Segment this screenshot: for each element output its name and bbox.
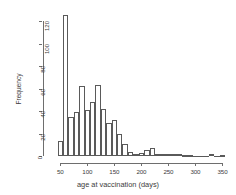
y-axis-tick-label: 80: [39, 66, 46, 73]
histogram-figure: 020406080100120 50100150200250300350 Fre…: [0, 0, 236, 195]
x-axis-tick-label: 300: [190, 168, 200, 175]
x-axis-tick-label: 350: [217, 168, 227, 175]
x-axis-tick: [195, 163, 196, 166]
x-axis-title: age at vaccination (days): [0, 180, 236, 189]
y-axis-tick-label: 100: [43, 44, 50, 54]
x-axis-tick: [114, 163, 115, 166]
y-axis-tick-label: 60: [39, 89, 46, 96]
y-axis-tick-label: 20: [39, 134, 46, 141]
y-axis-tick-label: 40: [39, 111, 46, 118]
histogram-bar: [220, 155, 225, 157]
x-axis-tick-label: 200: [136, 168, 146, 175]
y-axis-tick-label: 120: [43, 21, 50, 31]
plot-area: 020406080100120 50100150200250300350 Fre…: [0, 0, 236, 195]
x-axis-tick-label: 150: [109, 168, 119, 175]
y-axis-tick-label: 0: [36, 156, 43, 159]
x-axis-tick: [87, 163, 88, 166]
histogram-bar: [204, 156, 209, 157]
y-axis-title: Frequency: [15, 73, 22, 104]
x-axis-tick-label: 250: [163, 168, 173, 175]
x-axis-tick-label: 100: [82, 168, 92, 175]
x-axis-tick-label: 50: [57, 168, 64, 175]
x-axis-tick: [168, 163, 169, 166]
x-axis-tick: [141, 163, 142, 166]
x-axis-tick: [60, 163, 61, 166]
histogram-bars: [0, 0, 236, 195]
x-axis-tick: [222, 163, 223, 166]
